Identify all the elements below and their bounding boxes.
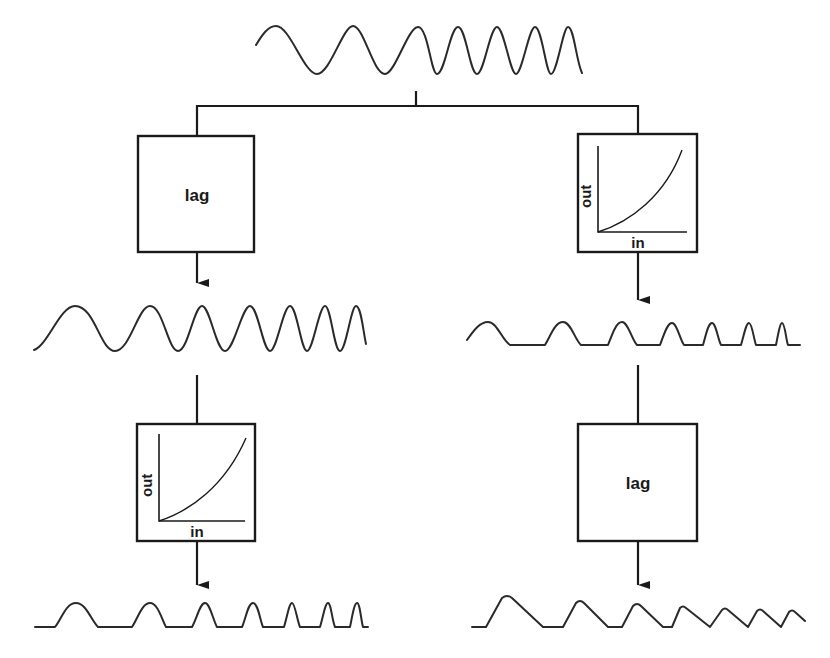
in-label: in: [190, 523, 203, 540]
out-label: out: [577, 185, 594, 208]
lag-label: lag: [185, 186, 210, 205]
lag-label: lag: [626, 474, 651, 493]
lag-block-bottom-right: lag: [578, 424, 697, 541]
in-label: in: [631, 234, 644, 251]
right-rectified-wave: [467, 322, 800, 345]
lag-nonlinearity-diagram: lag out in out in lag: [0, 0, 830, 658]
nonlinearity-block-top-right: out in: [577, 134, 697, 252]
input-chirp-wave: [256, 26, 582, 74]
lag-block-top-left: lag: [138, 136, 254, 252]
out-label: out: [138, 474, 155, 497]
split-connector: [197, 106, 638, 136]
right-output-wave: [472, 596, 805, 627]
left-output-wave: [35, 603, 368, 627]
left-lagged-wave: [34, 306, 366, 351]
nonlinearity-block-bottom-left: out in: [137, 424, 255, 541]
